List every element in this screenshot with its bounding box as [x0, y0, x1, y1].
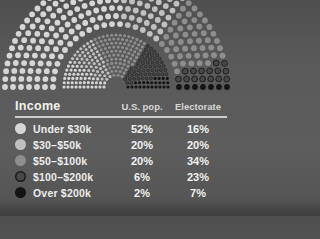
electorate-value: 20%: [169, 139, 227, 151]
legend-swatch-over-200k: [15, 187, 26, 198]
us-pop-value: 2%: [115, 187, 169, 199]
us-pop-value: 20%: [115, 155, 169, 167]
table-row: Under $30k 52% 16%: [15, 121, 227, 137]
income-bracket-label: Under $30k: [33, 123, 115, 135]
us-pop-value: 52%: [115, 123, 169, 135]
income-bracket-label: $30–$50k: [33, 139, 115, 151]
income-chart-card: Income U.S. pop. Electorate Under $30k 5…: [0, 0, 231, 216]
table-rows: Under $30k 52% 16% $30–$50k 20% 20% $50–…: [15, 121, 227, 201]
us-pop-value: 20%: [115, 139, 169, 151]
legend-swatch-100k-200k: [15, 171, 26, 182]
table-row: $100–$200k 6% 23%: [15, 169, 227, 185]
income-table: Income U.S. pop. Electorate Under $30k 5…: [0, 100, 231, 201]
table-header: Income U.S. pop. Electorate: [15, 100, 227, 113]
electorate-value: 34%: [169, 155, 227, 167]
electorate-value: 7%: [169, 187, 227, 199]
legend-swatch-30k-50k: [15, 139, 26, 150]
income-bracket-label: Over $200k: [33, 187, 115, 199]
legend-swatch-50k-100k: [15, 155, 26, 166]
header-divider: [15, 116, 227, 118]
table-row: $30–$50k 20% 20%: [15, 137, 227, 153]
electorate-value: 23%: [169, 171, 227, 183]
electorate-value: 16%: [169, 123, 227, 135]
income-title: Income: [15, 100, 115, 113]
income-bracket-label: $100–$200k: [33, 171, 115, 183]
parliament-chart: [0, 0, 231, 96]
legend-swatch-under-30k: [15, 123, 26, 134]
electorate-column-header: Electorate: [169, 100, 227, 113]
us-pop-value: 6%: [115, 171, 169, 183]
us-pop-column-header: U.S. pop.: [115, 100, 169, 113]
income-bracket-label: $50–$100k: [33, 155, 115, 167]
table-row: $50–$100k 20% 34%: [15, 153, 227, 169]
table-row: Over $200k 2% 7%: [15, 185, 227, 201]
